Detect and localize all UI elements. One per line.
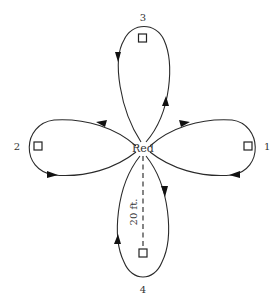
arrow-down-icon	[161, 186, 168, 197]
distance-label: 20 ft.	[128, 199, 139, 226]
loop-label-4: 4	[140, 284, 146, 295]
arrow-left-icon	[229, 171, 240, 178]
marker-square-3	[139, 34, 147, 42]
loop-1	[150, 120, 255, 178]
cloverleaf-diagram: Red 3 1 2 4 20 ft.	[0, 0, 280, 296]
loop-4	[114, 156, 169, 277]
loop-label-3: 3	[140, 12, 146, 23]
loop-label-2: 2	[14, 141, 20, 152]
marker-square-4	[139, 249, 147, 257]
arrow-down-icon	[115, 52, 121, 62]
loop-label-1: 1	[264, 141, 270, 152]
loop-2	[29, 120, 136, 178]
marker-square-2	[34, 142, 42, 150]
marker-square-1	[244, 142, 252, 150]
center-label: Red	[132, 142, 154, 155]
arrow-up-icon	[114, 234, 121, 244]
loop-3	[115, 27, 170, 143]
arrow-up-icon	[162, 96, 169, 106]
arrow-right-icon	[47, 171, 58, 178]
